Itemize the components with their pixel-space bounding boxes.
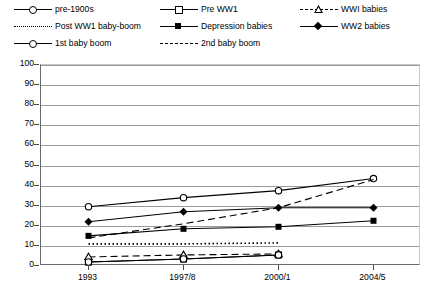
y-axis-tick-label: 100 — [0, 59, 34, 68]
legend-key-open-triangle-icon — [300, 4, 338, 15]
data-point-marker — [85, 218, 93, 226]
data-point-marker — [275, 252, 281, 258]
plot-area — [40, 64, 420, 265]
legend-item-2nd-baby-boom: 2nd baby boom — [160, 37, 260, 50]
legend-label: Post WW1 baby-boom — [55, 22, 141, 31]
legend-label: 2nd baby boom — [201, 39, 260, 48]
legend-label: WWI babies — [341, 5, 387, 14]
series-line — [89, 243, 279, 244]
legend-item-wwi-babies: WWI babies — [300, 3, 387, 16]
data-point-marker — [371, 218, 377, 224]
data-point-marker — [370, 204, 378, 212]
series-line — [89, 208, 374, 222]
legend-key-filled-diamond-icon — [300, 21, 338, 32]
y-axis-tick-label: 0 — [0, 260, 34, 269]
legend-item-1st-baby-boom: 1st baby boom — [14, 37, 111, 50]
y-axis-tick — [34, 185, 39, 186]
legend-item-ww2-babies: WW2 babies — [300, 20, 390, 33]
y-axis-tick-label: 20 — [0, 220, 34, 229]
y-axis-tick — [34, 124, 39, 125]
x-axis-tick — [278, 265, 279, 270]
series-line — [89, 180, 374, 238]
data-point-marker — [275, 187, 281, 193]
x-axis-tick-label: 2000/1 — [243, 272, 313, 282]
legend-label: Depression babies — [201, 22, 272, 31]
legend-label: 1st baby boom — [55, 39, 111, 48]
y-axis-tick-label: 90 — [0, 79, 34, 88]
legend-label: WW2 babies — [341, 22, 390, 31]
y-axis-tick — [34, 265, 39, 266]
legend-label: Pre WW1 — [201, 5, 238, 14]
legend-item-pre-ww1: Pre WW1 — [160, 3, 238, 16]
y-axis-tick-label: 50 — [0, 160, 34, 169]
y-axis-tick — [34, 64, 39, 65]
y-axis-tick — [34, 165, 39, 166]
data-point-marker — [180, 256, 186, 262]
data-point-marker — [180, 194, 186, 200]
legend-key-dashed-line-icon — [160, 38, 198, 49]
y-axis-tick-label: 10 — [0, 240, 34, 249]
y-axis-tick — [34, 225, 39, 226]
x-axis-tick — [183, 265, 184, 270]
legend-label: pre-1900s — [55, 5, 94, 14]
y-axis-tick — [34, 104, 39, 105]
y-axis-tick — [34, 245, 39, 246]
x-axis-tick-label: 1993 — [53, 272, 123, 282]
data-point-marker — [181, 226, 187, 232]
y-axis-tick-label: 80 — [0, 99, 34, 108]
data-point-marker — [276, 224, 282, 230]
legend-key-filled-square-icon — [160, 21, 198, 32]
y-axis-tick-label: 70 — [0, 119, 34, 128]
legend-item-depression-babies: Depression babies — [160, 20, 272, 33]
legend-item-pre-1900s: pre-1900s — [14, 3, 94, 16]
x-axis-tick-label: 1997/8 — [148, 272, 218, 282]
line-chart: pre-1900s Pre WW1 WWI babies Post WW1 ba… — [0, 0, 443, 300]
series-layer — [41, 65, 421, 266]
y-axis-tick — [34, 144, 39, 145]
data-point-marker — [85, 259, 91, 265]
x-axis-tick-label: 2004/5 — [338, 272, 408, 282]
series-line — [89, 221, 374, 236]
legend-key-open-circle-icon — [14, 4, 52, 15]
legend-key-dotted-line-icon — [14, 21, 52, 32]
legend-key-open-square-icon — [160, 4, 198, 15]
y-axis-tick-label: 30 — [0, 200, 34, 209]
y-axis-tick — [34, 205, 39, 206]
legend-item-post-ww1-baby-boom: Post WW1 baby-boom — [14, 20, 141, 33]
y-axis-tick-label: 40 — [0, 180, 34, 189]
data-point-marker — [85, 204, 91, 210]
y-axis-tick-label: 60 — [0, 139, 34, 148]
data-point-marker — [180, 208, 188, 216]
x-axis-tick — [88, 265, 89, 270]
chart-legend: pre-1900s Pre WW1 WWI babies Post WW1 ba… — [0, 0, 443, 56]
y-axis-tick — [34, 84, 39, 85]
x-axis-tick — [373, 265, 374, 270]
legend-key-open-circle-icon — [14, 38, 52, 49]
